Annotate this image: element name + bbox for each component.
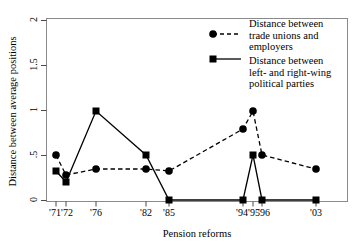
legend-entry-political-parties: Distance between left- and right-wing po… xyxy=(249,55,331,90)
x-axis-ticks xyxy=(56,202,316,207)
y-axis-ticks xyxy=(41,21,47,201)
x-tick-label-76: '76 xyxy=(84,207,108,218)
y-tick-label-2: 2 xyxy=(28,10,39,30)
series-political-parties-line xyxy=(56,111,316,200)
legend-entry-political-parties-line1: Distance between xyxy=(249,55,331,67)
x-tick-label-82: '82 xyxy=(134,207,158,218)
legend-sample-trade-unions xyxy=(209,30,241,38)
x-tick-label-85: '85 xyxy=(157,207,181,218)
y-tick-label-0-5: .5 xyxy=(28,145,39,165)
x-tick-label-03: '03 xyxy=(304,207,328,218)
legend-entry-trade-unions: Distance between trade unions and employ… xyxy=(249,18,323,53)
series-political-parties-markers xyxy=(53,108,320,204)
y-axis-title: Distance between average positions xyxy=(7,12,18,212)
x-tick-label-72: '72 xyxy=(55,207,79,218)
series-trade-unions-markers xyxy=(52,107,320,179)
y-tick-label-1-5: 1.5 xyxy=(28,55,39,75)
x-tick-label-96: '96 xyxy=(252,207,276,218)
chart-figure: 2 1.5 1 .5 0 '71 '72 '76 '82 '85 '94 '95… xyxy=(0,0,361,248)
legend-entry-trade-unions-line1: Distance between xyxy=(249,18,323,30)
legend-entry-trade-unions-line3: employers xyxy=(249,41,323,53)
legend-entry-trade-unions-line2: trade unions and xyxy=(249,30,323,42)
y-tick-label-0: 0 xyxy=(28,190,39,210)
y-tick-label-1: 1 xyxy=(28,100,39,120)
legend-entry-political-parties-line3: political parties xyxy=(249,78,331,90)
legend-sample-political-parties xyxy=(210,56,242,63)
x-axis-title: Pension reforms xyxy=(46,228,348,239)
legend-entry-political-parties-line2: left- and right-wing xyxy=(249,67,331,79)
